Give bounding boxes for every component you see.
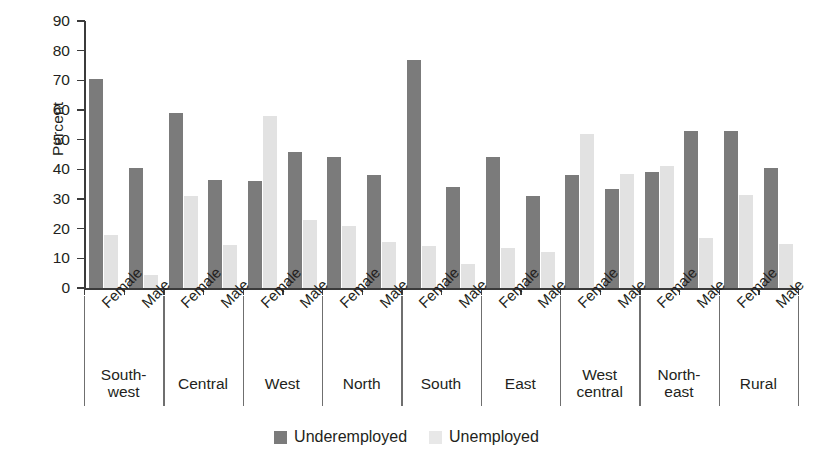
y-tick <box>77 109 85 111</box>
bar-underemployed-female-0 <box>89 79 103 288</box>
bar-unemployed-female-6 <box>342 226 356 288</box>
bar-underemployed-female-6 <box>327 157 341 288</box>
y-tick-value: 40 <box>53 160 70 178</box>
group-label-line1: North <box>322 375 401 392</box>
bar-unemployed-female-12 <box>580 134 594 288</box>
bar-unemployed-female-16 <box>739 195 753 288</box>
legend-item-underemployed: Underemployed <box>274 428 407 446</box>
legend-swatch-unemployed <box>429 431 442 444</box>
bar-underemployed-female-12 <box>565 175 579 288</box>
group-label-line1: West <box>560 366 639 383</box>
group-label-line1: Central <box>163 375 242 392</box>
bar-unemployed-female-2 <box>184 196 198 288</box>
chart-legend: UnderemployedUnemployed <box>0 428 813 446</box>
y-tick-value: 70 <box>53 71 70 89</box>
bar-unemployed-female-14 <box>660 166 674 288</box>
group-label-line1: Rural <box>719 375 798 392</box>
y-tick-value: 20 <box>53 220 70 238</box>
y-tick-value: 50 <box>53 131 70 149</box>
bar-underemployed-female-14 <box>645 172 659 288</box>
group-label-4: South <box>401 375 480 392</box>
group-label-8: Rural <box>719 375 798 392</box>
group-separator <box>798 296 799 406</box>
y-tick <box>77 258 85 260</box>
group-label-0: South-west <box>84 366 163 400</box>
group-label-line2: central <box>560 383 639 400</box>
bar-chart: Percent 0102030405060708090 FemaleMaleFe… <box>0 0 813 457</box>
group-label-line1: North- <box>639 366 718 383</box>
y-tick-value: 90 <box>53 12 70 30</box>
legend-swatch-underemployed <box>274 431 287 444</box>
y-tick <box>77 169 85 171</box>
bar-unemployed-male-5 <box>303 220 317 288</box>
bar-underemployed-female-4 <box>248 181 262 288</box>
y-tick-value: 10 <box>53 249 70 267</box>
bar-unemployed-male-13 <box>620 174 634 288</box>
bar-underemployed-female-2 <box>169 113 183 288</box>
group-label-line2: east <box>639 383 718 400</box>
bar-underemployed-female-10 <box>486 157 500 288</box>
group-label-line2: west <box>84 383 163 400</box>
legend-label: Underemployed <box>294 428 407 446</box>
bar-unemployed-female-4 <box>263 116 277 288</box>
group-label-1: Central <box>163 375 242 392</box>
bar-underemployed-female-8 <box>407 60 421 288</box>
y-tick <box>77 50 85 52</box>
y-tick <box>77 20 85 22</box>
group-label-line1: South <box>401 375 480 392</box>
x-tick <box>84 288 85 295</box>
group-label-2: West <box>243 375 322 392</box>
y-tick <box>77 198 85 200</box>
group-label-line1: West <box>243 375 322 392</box>
y-tick <box>77 139 85 141</box>
group-label-line1: South- <box>84 366 163 383</box>
group-label-5: East <box>481 375 560 392</box>
group-label-7: North-east <box>639 366 718 400</box>
legend-item-unemployed: Unemployed <box>429 428 539 446</box>
y-tick-value: 30 <box>53 190 70 208</box>
y-axis-line <box>84 21 86 289</box>
y-tick-value: 80 <box>53 42 70 60</box>
group-label-line1: East <box>481 375 560 392</box>
y-tick-value: 60 <box>53 101 70 119</box>
y-tick-value: 0 <box>61 279 70 297</box>
legend-label: Unemployed <box>449 428 539 446</box>
bar-underemployed-female-16 <box>724 131 738 288</box>
group-label-6: Westcentral <box>560 366 639 400</box>
y-tick <box>77 80 85 82</box>
group-label-3: North <box>322 375 401 392</box>
y-tick <box>77 228 85 230</box>
